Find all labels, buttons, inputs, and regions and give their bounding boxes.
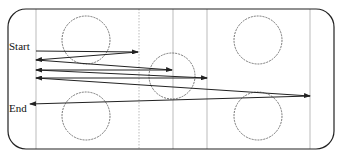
circle-bottom-right: [234, 92, 282, 140]
end-label: End: [9, 102, 27, 114]
start-label: Start: [9, 40, 30, 52]
arrow-segment: [36, 52, 138, 60]
circle-top-left: [62, 16, 110, 64]
arrow-segment: [30, 96, 310, 104]
arrow-segment: [36, 51, 138, 52]
divider-lines: [36, 9, 310, 149]
arrow-segment: [36, 60, 172, 70]
arrow-segment: [36, 70, 207, 78]
circle-bottom-left: [62, 92, 110, 140]
circle-top-right: [234, 16, 282, 64]
zigzag-diagram: Start End: [0, 0, 343, 159]
